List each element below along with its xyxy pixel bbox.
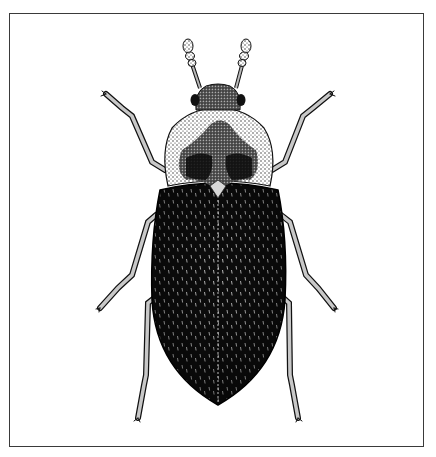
caption-strip [0, 449, 436, 457]
head [196, 84, 241, 110]
eye-left [191, 94, 200, 106]
eye-right [237, 94, 246, 106]
beetle-illustration [0, 0, 436, 457]
antenna-right [236, 39, 251, 88]
antenna-left [183, 39, 200, 88]
